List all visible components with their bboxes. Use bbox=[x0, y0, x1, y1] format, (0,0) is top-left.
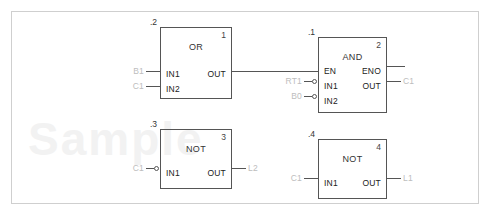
operand-block2-in1[interactable]: RT1 bbox=[278, 76, 302, 86]
block-2-pin-in2[interactable]: IN2 bbox=[324, 97, 338, 106]
inversion-bubble-block2-in2 bbox=[312, 94, 317, 99]
operand-block2-in2[interactable]: B0 bbox=[278, 91, 302, 101]
block-4-number: 4 bbox=[376, 142, 381, 152]
block-2-pin-en[interactable]: EN bbox=[324, 67, 336, 76]
block-2-pin-eno[interactable]: ENO bbox=[362, 67, 381, 76]
wire-rt1-to-block2-in1 bbox=[304, 81, 312, 82]
inversion-bubble-block2-in1 bbox=[312, 79, 317, 84]
block-3-not[interactable]: 3 NOT IN1 OUT bbox=[160, 129, 232, 189]
wire-block4-out-to-l1 bbox=[387, 178, 401, 179]
operand-block3-out[interactable]: L2 bbox=[248, 163, 258, 173]
block-3-pin-out[interactable]: OUT bbox=[207, 169, 226, 178]
wire-block2-out-to-c1 bbox=[387, 81, 401, 82]
block-1-function-label: OR bbox=[161, 42, 231, 52]
operand-block4-in1[interactable]: C1 bbox=[280, 173, 302, 183]
block-4-pin-out[interactable]: OUT bbox=[362, 179, 381, 188]
block-1-number: 1 bbox=[221, 30, 226, 40]
block-1-pin-in1[interactable]: IN1 bbox=[166, 70, 180, 79]
wire-c1-to-block3-in1 bbox=[146, 168, 154, 169]
block-1-or[interactable]: 1 OR IN1 IN2 OUT bbox=[160, 27, 232, 99]
wire-block3-out-to-l2 bbox=[232, 168, 246, 169]
block-2-function-label: AND bbox=[319, 52, 386, 62]
operand-block1-in1[interactable]: B1 bbox=[124, 66, 144, 76]
block-2-number: 2 bbox=[376, 40, 381, 50]
operand-block3-in1[interactable]: C1 bbox=[122, 163, 144, 173]
block-2-and[interactable]: 2 AND EN IN1 IN2 ENO OUT bbox=[318, 37, 387, 113]
block-1-pin-in2[interactable]: IN2 bbox=[166, 85, 180, 94]
inversion-bubble-block3-in1 bbox=[154, 166, 159, 171]
block-1-tag: .2 bbox=[150, 17, 157, 27]
block-2-pin-out[interactable]: OUT bbox=[362, 82, 381, 91]
operand-block1-in2[interactable]: C1 bbox=[124, 81, 144, 91]
operand-block4-out[interactable]: L1 bbox=[403, 173, 413, 183]
block-3-function-label: NOT bbox=[161, 144, 231, 154]
block-4-function-label: NOT bbox=[319, 154, 386, 164]
block-4-pin-in1[interactable]: IN1 bbox=[324, 179, 338, 188]
block-2-tag: .1 bbox=[308, 27, 315, 37]
block-2-pin-in1[interactable]: IN1 bbox=[324, 82, 338, 91]
operand-block2-out[interactable]: C1 bbox=[403, 76, 414, 86]
wire-b0-to-block2-in2 bbox=[304, 96, 312, 97]
wire-c1-to-block4-in1 bbox=[304, 178, 318, 179]
block-3-tag: .3 bbox=[150, 119, 157, 129]
wire-b1-to-block1-in1 bbox=[146, 71, 160, 72]
block-4-not[interactable]: 4 NOT IN1 OUT bbox=[318, 139, 387, 199]
block-1-pin-out[interactable]: OUT bbox=[207, 70, 226, 79]
wire-block2-eno-stub bbox=[387, 66, 405, 67]
wire-c1-to-block1-in2 bbox=[146, 86, 160, 87]
diagram-canvas: Sample .2 1 OR IN1 IN2 OUT B1 C1 .1 2 AN… bbox=[0, 0, 494, 218]
block-4-tag: .4 bbox=[308, 129, 315, 139]
wire-block1-out-to-block2-en bbox=[232, 71, 318, 72]
block-3-number: 3 bbox=[221, 132, 226, 142]
block-3-pin-in1[interactable]: IN1 bbox=[166, 169, 180, 178]
